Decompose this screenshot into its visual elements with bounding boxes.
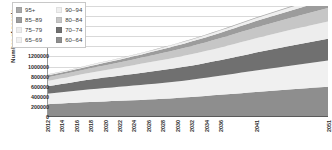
legend-label: 60–64 xyxy=(65,37,82,43)
legend-swatch xyxy=(56,17,62,23)
legend-label: 75–79 xyxy=(25,27,42,33)
legend-item: 65–69 xyxy=(16,35,42,45)
y-tick-label: 1000000 xyxy=(3,64,49,70)
legend-label: 85–89 xyxy=(25,17,42,23)
x-tick-label: 2034 xyxy=(204,120,210,132)
x-axis-tick-labels: 2012201420162018202020222024202620282030… xyxy=(47,120,328,150)
legend-label: 90–94 xyxy=(65,7,82,13)
legend-item: 80–84 xyxy=(56,15,82,25)
population-age-band-area-chart: Number of people 02000004000006000008000… xyxy=(0,0,332,150)
plot-area xyxy=(47,6,328,117)
x-tick-label: 2026 xyxy=(146,120,152,132)
legend-label: 95+ xyxy=(25,7,35,13)
x-tick-label: 2014 xyxy=(59,120,65,132)
legend-swatch xyxy=(16,37,22,43)
stacked-area-series xyxy=(47,6,328,117)
legend-item: 95+ xyxy=(16,5,42,15)
legend-label: 65–69 xyxy=(25,37,42,43)
legend-item: 70–74 xyxy=(56,25,82,35)
x-tick-label: 2016 xyxy=(74,120,80,132)
x-tick-label: 2036 xyxy=(218,120,224,132)
x-tick-label: 2024 xyxy=(131,120,137,132)
x-tick-label: 2022 xyxy=(117,120,123,132)
x-tick-label: 2051 xyxy=(326,120,332,132)
x-tick-label: 2030 xyxy=(175,120,181,132)
x-tick-label: 2018 xyxy=(88,120,94,132)
x-tick-label: 2041 xyxy=(254,120,260,132)
y-tick-label: 400000 xyxy=(3,94,49,100)
y-tick-label: 1200000 xyxy=(3,53,49,59)
legend-swatch xyxy=(16,27,22,33)
legend-swatch xyxy=(16,7,22,13)
x-tick-label: 2028 xyxy=(160,120,166,132)
y-tick-label: 200000 xyxy=(3,104,49,110)
legend: 95+90–9485–8980–8475–7970–7465–6960–64 xyxy=(12,2,86,48)
x-tick-label: 2032 xyxy=(189,120,195,132)
legend-item: 85–89 xyxy=(16,15,42,25)
legend-swatch xyxy=(56,27,62,33)
legend-swatch xyxy=(56,7,62,13)
x-tick-label: 2020 xyxy=(103,120,109,132)
legend-label: 80–84 xyxy=(65,17,82,23)
legend-label: 70–74 xyxy=(65,27,82,33)
legend-item: 75–79 xyxy=(16,25,42,35)
legend-item: 90–94 xyxy=(56,5,82,15)
legend-swatch xyxy=(16,17,22,23)
y-tick-label: 800000 xyxy=(3,74,49,80)
legend-swatch xyxy=(56,37,62,43)
legend-item: 60–64 xyxy=(56,35,82,45)
y-tick-label: 600000 xyxy=(3,84,49,90)
x-tick-label: 2012 xyxy=(45,120,51,132)
y-tick-label: 0 xyxy=(3,114,49,120)
